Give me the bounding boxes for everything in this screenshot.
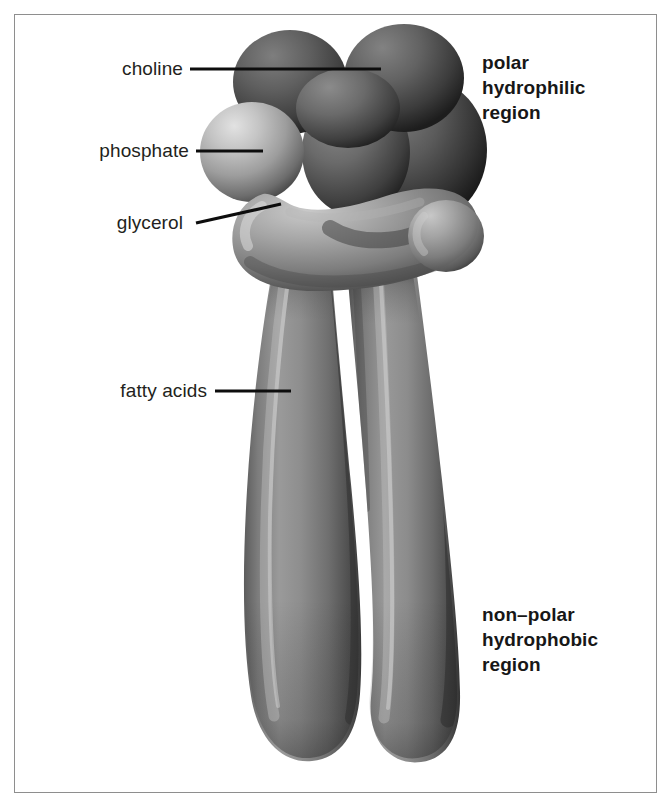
label-phosphate: phosphate [99,140,189,162]
polar-line-1: polar [482,50,586,75]
label-choline: choline [122,58,183,80]
nonpolar-line-1: non–polar [482,602,598,627]
nonpolar-line-3: region [482,652,598,677]
polar-line-3: region [482,100,586,125]
polar-line-2: hydrophilic [482,75,586,100]
nonpolar-line-2: hydrophobic [482,627,598,652]
label-nonpolar-hydrophobic-region: non–polar hydrophobic region [482,602,598,677]
label-fatty-acids: fatty acids [120,380,207,402]
phospholipid-figure: choline phosphate glycerol fatty acids p… [0,0,672,803]
label-glycerol: glycerol [117,212,183,234]
label-polar-hydrophilic-region: polar hydrophilic region [482,50,586,125]
